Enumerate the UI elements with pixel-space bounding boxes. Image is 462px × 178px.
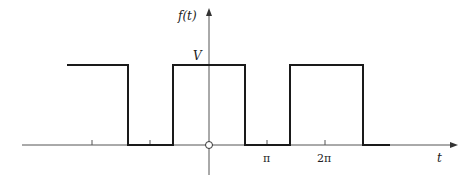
y-axis-label: f(t): [177, 9, 197, 23]
y-axis: [206, 8, 212, 175]
level-label-v: V: [193, 49, 203, 63]
x-axis: [22, 142, 458, 148]
square-wave-signal: [67, 65, 390, 145]
x-axis-label: t: [437, 151, 442, 165]
x-axis-arrow-icon: [450, 142, 458, 148]
origin-marker: [206, 142, 213, 149]
tick-label-2pi: 2π: [317, 152, 331, 165]
y-axis-arrow-icon: [206, 8, 212, 16]
square-wave-diagram: f(t) V π 2π t: [0, 0, 462, 178]
tick-label-pi: π: [263, 152, 270, 165]
